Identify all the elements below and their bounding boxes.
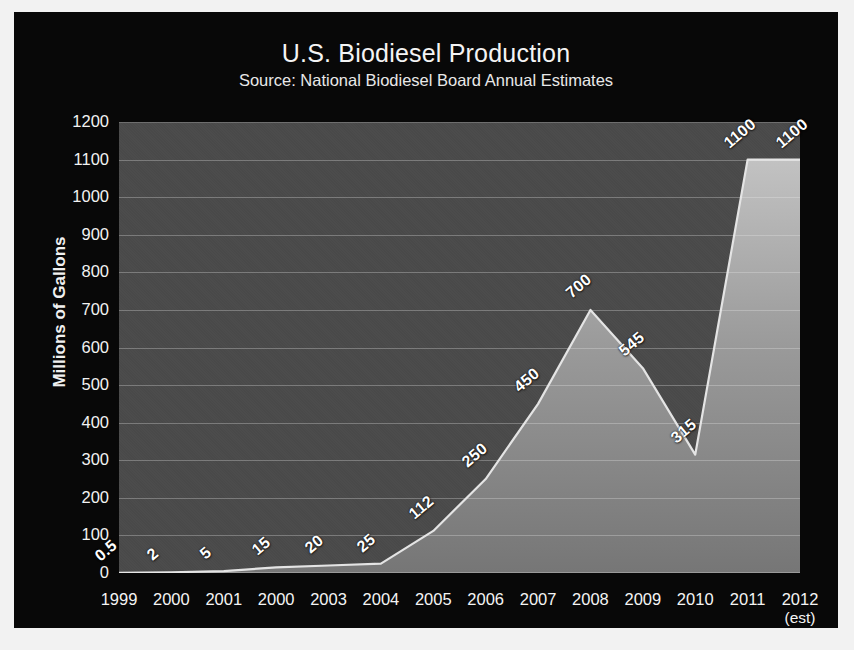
- gridline: [119, 498, 800, 499]
- x-axis-tick-label: 2003: [301, 590, 357, 608]
- y-axis-tick-label: 600: [53, 339, 109, 355]
- area-fill: [119, 160, 800, 573]
- y-axis-tick-label: 700: [53, 301, 109, 317]
- x-axis-tick-sublabel: (est): [772, 608, 828, 627]
- y-axis-tick-label: 300: [53, 451, 109, 467]
- chart-source-subtitle: Source: National Biodiesel Board Annual …: [14, 69, 838, 91]
- gridline: [119, 572, 800, 573]
- y-axis-tick-label: 1200: [53, 113, 109, 129]
- y-axis-tick-label: 1100: [53, 151, 109, 167]
- x-axis-tick-label: 1999: [91, 590, 147, 608]
- gridline: [119, 272, 800, 273]
- x-axis-tick-label: 2009: [615, 590, 671, 608]
- page-title: U.S. Biodiesel Production: [14, 38, 838, 68]
- gridline: [119, 310, 800, 311]
- x-axis-tick-label: 2012(est): [772, 590, 828, 627]
- x-axis-tick-label: 2000: [143, 590, 199, 608]
- plot-area: [119, 122, 800, 573]
- y-axis-tick-label: 900: [53, 226, 109, 242]
- gridline: [119, 235, 800, 236]
- gridline: [119, 385, 800, 386]
- x-axis-tick-label: 2005: [405, 590, 461, 608]
- x-axis-tick-label: 2000: [248, 590, 304, 608]
- gridline: [119, 160, 800, 161]
- x-axis-tick-label: 2008: [562, 590, 618, 608]
- y-axis-tick-label: 200: [53, 489, 109, 505]
- x-axis-tick-label: 2004: [353, 590, 409, 608]
- x-axis-tick-label: 2007: [510, 590, 566, 608]
- y-axis-tick-label: 800: [53, 263, 109, 279]
- x-axis-tick-label: 2006: [458, 590, 514, 608]
- title-block: U.S. Biodiesel Production Source: Nation…: [14, 38, 838, 91]
- gridline: [119, 348, 800, 349]
- chart-card: U.S. Biodiesel Production Source: Nation…: [14, 12, 838, 628]
- y-axis-tick-label: 400: [53, 414, 109, 430]
- gridline: [119, 122, 800, 123]
- y-axis-tick-label: 500: [53, 376, 109, 392]
- chart-figure: U.S. Biodiesel Production Source: Nation…: [0, 0, 854, 650]
- gridline: [119, 535, 800, 536]
- y-axis-tick-label: 1000: [53, 188, 109, 204]
- x-axis-tick-label: 2001: [196, 590, 252, 608]
- x-axis-tick-label: 2011: [720, 590, 776, 608]
- gridline: [119, 460, 800, 461]
- y-axis-tick-label: 0: [53, 564, 109, 580]
- gridline: [119, 423, 800, 424]
- x-axis-tick-label: 2010: [667, 590, 723, 608]
- y-axis-tick-label: 100: [53, 526, 109, 542]
- gridline: [119, 197, 800, 198]
